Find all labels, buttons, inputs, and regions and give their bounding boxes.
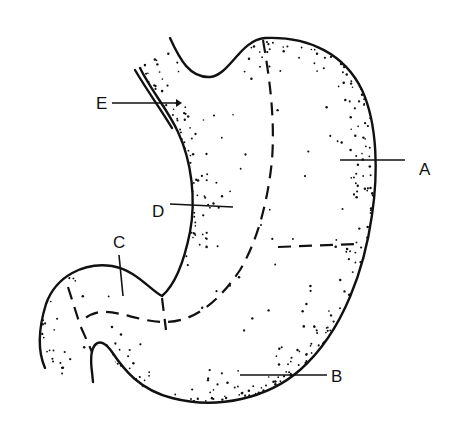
label-d-text: D xyxy=(152,202,164,221)
angular-notch-boundary xyxy=(162,298,166,330)
stomach-diagram: A B C D E xyxy=(0,0,457,426)
fundus-body-boundary xyxy=(82,40,273,322)
label-e: E xyxy=(96,94,182,113)
esophagus-edge xyxy=(135,70,172,128)
label-b-text: B xyxy=(331,367,342,386)
lesser-curvature-outline xyxy=(40,68,193,368)
pylorus-boundary xyxy=(68,287,92,352)
greater-curvature-outline xyxy=(91,38,375,403)
leader-d xyxy=(170,204,233,207)
label-c-text: C xyxy=(113,233,125,252)
label-a: A xyxy=(340,160,431,179)
body-antrum-boundary xyxy=(278,244,356,247)
arrowhead-e xyxy=(176,99,182,107)
label-e-text: E xyxy=(96,94,107,113)
leader-c xyxy=(119,255,123,296)
label-c: C xyxy=(113,233,125,296)
label-a-text: A xyxy=(419,160,431,179)
stipple-shading xyxy=(39,34,381,410)
